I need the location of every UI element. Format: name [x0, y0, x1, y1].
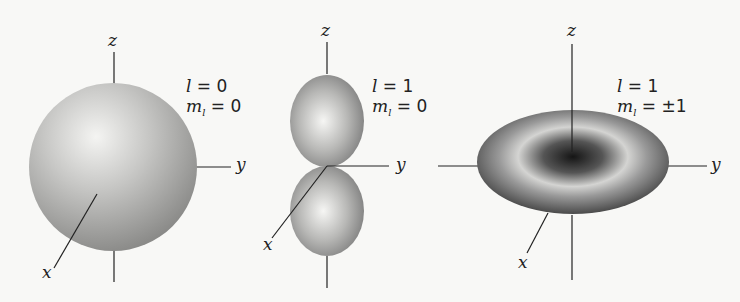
x-axis-label: x — [42, 264, 52, 281]
x-axis-label: x — [263, 236, 273, 253]
x-axis-label: x — [518, 254, 528, 271]
upper-lobe — [290, 75, 364, 167]
y-axis-label: y — [236, 156, 246, 173]
orbital-diagram: z y x z y x z y x l = 0 ml = 0 l = 1 ml … — [0, 0, 740, 302]
z-axis-label: z — [108, 32, 117, 49]
quantum-numbers-s: l = 0 ml = 0 — [186, 76, 241, 123]
quantum-numbers-p-pm1: l = 1 ml = ±1 — [617, 76, 686, 123]
torus-shape — [477, 110, 669, 214]
y-axis-label: y — [711, 156, 721, 173]
sphere-shape — [29, 83, 197, 251]
lower-lobe — [290, 166, 364, 256]
z-axis-label: z — [321, 22, 330, 39]
quantum-numbers-pz: l = 1 ml = 0 — [372, 76, 427, 123]
y-axis-label: y — [396, 156, 406, 173]
z-axis-label: z — [567, 22, 576, 39]
